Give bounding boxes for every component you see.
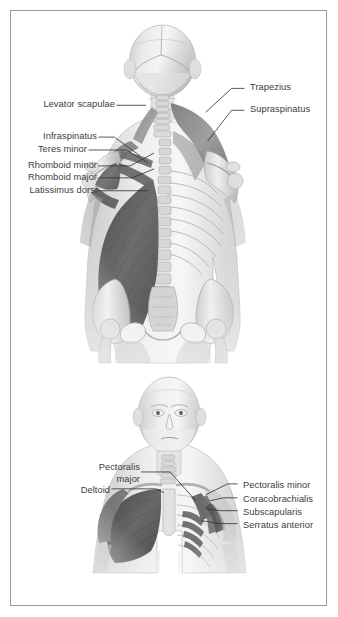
label-supraspinatus: Supraspinatus xyxy=(250,104,310,116)
label-trapezius: Trapezius xyxy=(250,82,291,94)
anatomy-illustration-page: Levator scapulae Infraspinatus Teres min… xyxy=(0,0,338,617)
label-teres-minor: Teres minor xyxy=(11,144,87,156)
label-infraspinatus: Infraspinatus xyxy=(11,131,97,143)
label-serratus-anterior: Serratus anterior xyxy=(243,520,313,532)
label-pectoralis-major: Pectoralis major xyxy=(11,462,140,485)
label-subscapularis: Subscapularis xyxy=(243,507,302,519)
label-pectoralis-major-line1: Pectoralis xyxy=(99,462,140,472)
label-pectoralis-minor: Pectoralis minor xyxy=(243,480,310,492)
label-levator-scapulae: Levator scapulae xyxy=(11,99,115,111)
label-deltoid: Deltoid xyxy=(11,485,110,497)
label-rhomboid-major: Rhomboid major xyxy=(11,172,97,184)
label-coracobrachialis: Coracobrachialis xyxy=(243,494,313,506)
illustration-frame: Levator scapulae Infraspinatus Teres min… xyxy=(10,10,327,606)
label-rhomboid-minor: Rhomboid minor xyxy=(11,160,97,172)
label-pectoralis-major-line2: major xyxy=(117,474,141,484)
label-latissimus-dorsi: Latissimus dorsi xyxy=(11,185,97,197)
